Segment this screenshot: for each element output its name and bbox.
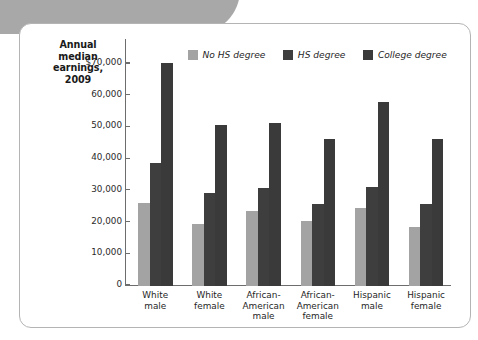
bar-2 <box>432 139 444 286</box>
figure-page: Annualmedianearnings,2009 No HS degreeHS… <box>0 0 478 340</box>
bar-group <box>192 39 227 286</box>
bar-2 <box>324 139 336 286</box>
y-axis-tick-label: 50,000 <box>64 120 122 130</box>
bar-2 <box>269 123 281 286</box>
bar-1 <box>258 188 270 286</box>
bar-1 <box>204 193 216 286</box>
y-axis-tick-label: 0 <box>64 279 122 289</box>
y-axis-tick-label: 20,000 <box>64 216 122 226</box>
bar-2 <box>161 63 173 286</box>
y-axis-tick-label: 30,000 <box>64 184 122 194</box>
y-axis-tick-label: $70,000 <box>64 57 122 67</box>
bar-0 <box>355 208 367 286</box>
bar-group <box>301 39 336 286</box>
bar-1 <box>150 163 162 286</box>
bar-groups <box>126 39 451 286</box>
y-axis-tick-label: 10,000 <box>64 247 122 257</box>
bar-0 <box>301 221 313 286</box>
bar-group <box>355 39 390 286</box>
bar-group <box>246 39 281 286</box>
bar-1 <box>366 187 378 286</box>
bar-2 <box>378 102 390 286</box>
bar-0 <box>246 211 258 286</box>
bar-0 <box>138 203 150 286</box>
bar-group <box>138 39 173 286</box>
bar-0 <box>192 224 204 286</box>
x-axis-category-label: Hispanic female <box>392 290 460 311</box>
y-axis-tick-label: 60,000 <box>64 89 122 99</box>
bar-group <box>409 39 444 286</box>
bar-2 <box>215 125 227 286</box>
bar-0 <box>409 227 421 286</box>
bar-1 <box>312 204 324 286</box>
bar-1 <box>420 204 432 286</box>
y-axis-tick-label: 40,000 <box>64 152 122 162</box>
plot-area: No HS degreeHS degreeCollege degree $70,… <box>20 24 472 329</box>
figure-card: Annualmedianearnings,2009 No HS degreeHS… <box>19 23 471 328</box>
